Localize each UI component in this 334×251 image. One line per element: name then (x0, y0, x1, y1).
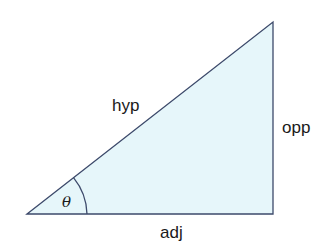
adjacent-label: adj (160, 224, 183, 241)
hypotenuse-label: hyp (112, 97, 139, 114)
opposite-label: opp (282, 119, 310, 136)
angle-theta-label: θ (62, 195, 71, 210)
right-triangle (27, 22, 273, 214)
triangle-diagram: hyp opp adj θ (0, 0, 334, 251)
